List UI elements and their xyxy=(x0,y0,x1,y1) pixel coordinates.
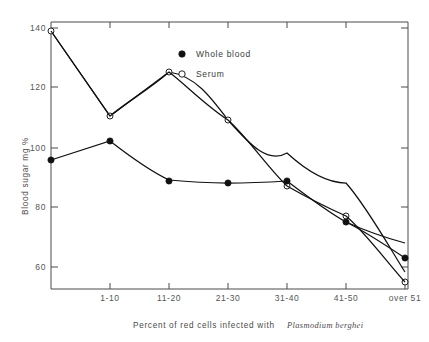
legend-label-whole-blood: Whole blood xyxy=(196,49,251,59)
x-tick-label-31-40: 31-40 xyxy=(275,293,300,303)
x-tick-label-11-20: 11-20 xyxy=(157,293,181,303)
y-tick-label-80: 80 xyxy=(35,202,46,212)
x-tick-label-over-51: over 51 xyxy=(389,293,422,303)
x-axis-tick-labels: 1-10 11-20 21-30 31-40 41-50 over 51 xyxy=(100,293,421,303)
serum-line-group xyxy=(51,31,405,282)
x-tick-label-41-50: 41-50 xyxy=(334,293,359,303)
chart-legend: Whole blood Serum xyxy=(179,49,251,79)
whole-blood-point-31-40 xyxy=(284,178,290,184)
plot-frame xyxy=(51,22,408,289)
y-axis-title: Blood sugar mg % xyxy=(21,137,30,215)
whole-blood-point-1-10 xyxy=(107,138,113,144)
whole-blood-point-11-20 xyxy=(166,178,172,184)
whole-blood-point-21-30 xyxy=(225,180,231,186)
legend-label-serum: Serum xyxy=(196,69,225,79)
whole-blood-curve xyxy=(51,141,405,243)
x-axis-title-species: Plasmodium berghei xyxy=(286,321,364,330)
legend-marker-serum xyxy=(179,71,185,77)
x-tick-label-21-30: 21-30 xyxy=(216,293,241,303)
x-axis-ticks xyxy=(110,22,405,289)
legend-marker-whole-blood xyxy=(179,51,185,57)
chart-figure: 140 120 100 80 60 Blood sugar mg % 1-10 … xyxy=(0,0,429,342)
x-axis-title-plain: Percent of red cells infected with xyxy=(133,321,275,330)
y-tick-label-60: 60 xyxy=(35,262,46,272)
series-whole-blood xyxy=(48,138,408,261)
y-axis-ticks xyxy=(51,28,408,267)
x-tick-label-1-10: 1-10 xyxy=(100,293,119,303)
y-tick-label-140: 140 xyxy=(30,23,46,33)
x-axis-title: Percent of red cells infected with Plasm… xyxy=(133,321,364,330)
series-serum xyxy=(48,28,408,285)
y-axis-tick-labels: 140 120 100 80 60 xyxy=(30,23,46,272)
blood-sugar-line-chart: 140 120 100 80 60 Blood sugar mg % 1-10 … xyxy=(0,0,429,342)
serum-curve xyxy=(51,31,405,282)
whole-blood-point-control xyxy=(48,157,54,163)
serum-line xyxy=(51,31,405,272)
y-tick-label-100: 100 xyxy=(30,143,46,153)
y-tick-label-120: 120 xyxy=(30,82,46,92)
